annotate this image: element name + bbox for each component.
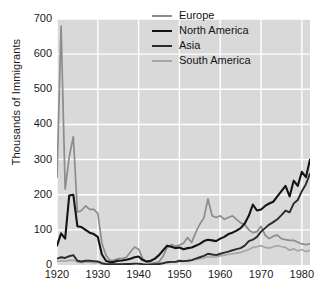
- series-line: [57, 174, 310, 265]
- legend-item[interactable]: Asia: [152, 38, 251, 53]
- y-tick-label: 700: [22, 13, 52, 24]
- legend-item-label: Asia: [179, 40, 200, 51]
- y-tick-label: 200: [22, 189, 52, 200]
- x-tick-label: 1950: [156, 268, 202, 280]
- legend-item-label: South America: [179, 55, 251, 66]
- legend-color-swatch: [152, 15, 172, 17]
- x-tick-label: 1930: [75, 268, 121, 280]
- legend-item-label: Europe: [179, 10, 214, 21]
- x-tick-label: 1960: [197, 268, 243, 280]
- legend-item[interactable]: South America: [152, 53, 251, 68]
- legend-item-label: North America: [179, 25, 249, 36]
- legend-color-swatch: [152, 30, 172, 32]
- legend-item[interactable]: North America: [152, 23, 251, 38]
- chart-legend: EuropeNorth AmericaAsiaSouth America: [148, 6, 255, 70]
- y-tick-label: 100: [22, 224, 52, 235]
- y-axis-ticks: 0100200300400500600700: [18, 0, 52, 297]
- immigration-line-chart: Thousands of Immigrants 0100200300400500…: [0, 0, 322, 297]
- x-tick-label: 1920: [34, 268, 80, 280]
- y-tick-label: 500: [22, 83, 52, 94]
- x-tick-label: 1940: [116, 268, 162, 280]
- y-tick-label: 300: [22, 154, 52, 165]
- y-tick-label: 600: [22, 48, 52, 59]
- x-tick-label: 1970: [238, 268, 284, 280]
- legend-color-swatch: [152, 45, 172, 47]
- legend-color-swatch: [152, 60, 172, 62]
- y-tick-label: 400: [22, 118, 52, 129]
- legend-item[interactable]: Europe: [152, 8, 251, 23]
- x-tick-label: 1980: [279, 268, 322, 280]
